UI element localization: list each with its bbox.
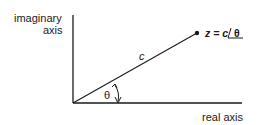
point-label: z = c θ (205, 27, 240, 39)
real-axis-label: real axis (202, 111, 243, 123)
point-z (195, 31, 199, 35)
angle-arrow-top-icon (112, 84, 117, 88)
vector-magnitude-label: c (139, 50, 145, 62)
point-label-prefix: z = c (205, 27, 231, 39)
angle-label: θ (104, 89, 110, 101)
imaginary-axis-label-line1: imaginary (14, 12, 62, 24)
vector-line (73, 33, 197, 103)
imaginary-axis-label-line2: axis (43, 24, 63, 36)
point-label-angle: θ (234, 27, 240, 39)
